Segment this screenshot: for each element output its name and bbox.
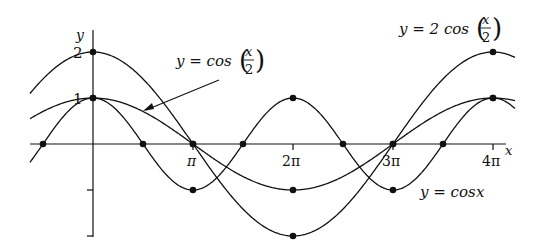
data-point xyxy=(390,187,397,194)
data-point xyxy=(340,141,347,148)
right-paren: ) xyxy=(492,13,502,43)
data-point xyxy=(290,95,297,102)
label-cos-x-var: x xyxy=(476,183,485,201)
cosine-graph: y x 2 1 π 2π 3π 4π y = cos ( x 2 ) y = 2… xyxy=(0,0,538,250)
x-axis-label: x xyxy=(505,143,513,158)
x-tick-label-pi: π xyxy=(186,153,197,169)
data-point xyxy=(240,141,247,148)
y-axis-label: y xyxy=(75,27,85,43)
data-point xyxy=(490,95,497,102)
y-tick-label-1: 1 xyxy=(73,90,83,108)
y-tick-label-2: 2 xyxy=(73,44,83,62)
frac-num: x xyxy=(245,44,253,59)
x-tick-label-2pi: 2π xyxy=(282,153,300,169)
label-cos-half-x: y = cos ( x 2 ) xyxy=(175,44,265,77)
data-point xyxy=(190,187,197,194)
data-point xyxy=(490,49,497,56)
label-cos-half-x-prefix: y = cos xyxy=(175,52,232,70)
data-point xyxy=(140,141,147,148)
frac-num: x xyxy=(482,12,490,27)
label-cos-x-prefix: y = cos xyxy=(419,183,476,201)
arrowhead-icon xyxy=(143,103,154,111)
data-point xyxy=(190,141,197,148)
data-point xyxy=(290,187,297,194)
label-cos-x: y = cos x xyxy=(419,183,485,201)
frac-den: 2 xyxy=(245,62,253,77)
data-point xyxy=(90,95,97,102)
data-point xyxy=(40,141,47,148)
label-2cos-half-x-prefix: y = 2 cos xyxy=(398,20,469,38)
frac-den: 2 xyxy=(482,30,490,45)
data-point xyxy=(440,141,447,148)
right-paren: ) xyxy=(255,45,265,75)
data-point xyxy=(390,141,397,148)
data-point xyxy=(90,49,97,56)
label-2cos-half-x: y = 2 cos ( x 2 ) xyxy=(398,12,502,45)
x-tick-label-4pi: 4π xyxy=(482,153,500,169)
x-tick-label-3pi: 3π xyxy=(382,153,400,169)
data-point xyxy=(290,233,297,240)
